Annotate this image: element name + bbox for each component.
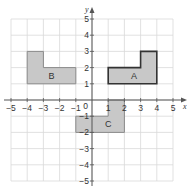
- y-tick-label: −1: [79, 111, 89, 121]
- y-tick-label: 4: [84, 30, 89, 40]
- coordinate-grid-figure: ABC −5−4−3−2−112345−5−4−3−2−1123450xy: [0, 0, 190, 190]
- y-tick-label: −3: [79, 144, 89, 154]
- y-tick-label: 1: [84, 79, 89, 89]
- y-tick-label: −4: [79, 160, 89, 170]
- shape-label-c: C: [105, 119, 112, 129]
- shape-label-a: A: [131, 71, 137, 81]
- x-tick-label: −2: [55, 103, 65, 113]
- shape-label-b: B: [48, 71, 54, 81]
- x-axis-label: x: [182, 102, 187, 111]
- x-tick-label: −5: [6, 103, 16, 113]
- x-tick-label: −3: [39, 103, 49, 113]
- y-tick-label: 2: [84, 63, 89, 73]
- x-tick-label: 5: [171, 103, 176, 113]
- y-tick-label: −5: [79, 176, 89, 186]
- x-tick-label: 4: [154, 103, 159, 113]
- origin-label: 0: [83, 101, 88, 111]
- y-axis-arrow-icon: [90, 7, 95, 13]
- x-tick-label: −4: [22, 103, 32, 113]
- tick-labels: −5−4−3−2−112345−5−4−3−2−1123450xy: [6, 5, 187, 186]
- x-tick-label: 3: [138, 103, 143, 113]
- y-tick-label: 5: [84, 14, 89, 24]
- y-tick-label: 3: [84, 46, 89, 56]
- x-tick-label: 1: [106, 103, 111, 113]
- y-axis-label: y: [84, 5, 89, 14]
- y-tick-label: −2: [79, 127, 89, 137]
- coordinate-plane: ABC −5−4−3−2−112345−5−4−3−2−1123450xy: [0, 0, 190, 190]
- x-tick-label: 2: [122, 103, 127, 113]
- axes: [4, 7, 187, 186]
